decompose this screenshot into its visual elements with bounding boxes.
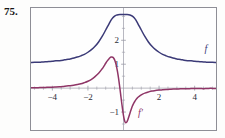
plot-svg: −4−224−112ff′ [31, 8, 216, 130]
x-tick-label: −2 [83, 92, 93, 102]
x-tick-label: −4 [48, 92, 58, 102]
figure-container: 75. −4−224−112ff′ [0, 0, 225, 138]
y-tick-label: 2 [115, 35, 120, 45]
y-tick-label: −1 [109, 107, 119, 117]
plot-frame: −4−224−112ff′ [30, 7, 217, 131]
x-tick-label: 2 [157, 92, 162, 102]
curve-label-f: f [204, 43, 208, 54]
x-tick-label: 4 [192, 92, 197, 102]
curve-label-f-prime: f′ [138, 107, 144, 118]
problem-number: 75. [4, 5, 18, 17]
